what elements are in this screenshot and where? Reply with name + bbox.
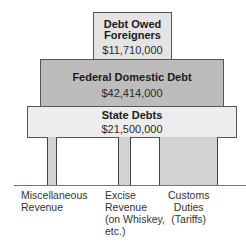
customs-duties-label: Customs Duties (Tariffs) (168, 189, 209, 225)
block-amount: $21,500,000 (28, 123, 236, 136)
customs-duties-pillar (159, 137, 218, 185)
block-title: Federal Domestic Debt (41, 72, 223, 83)
label-line: (on Whiskey, (105, 213, 165, 225)
debt-owed-foreigners-block: Debt Owed Foreigners $11,710,000 (93, 12, 172, 61)
block-title: Foreigners (94, 30, 171, 41)
label-line: Excise (105, 189, 165, 201)
federal-domestic-debt-block: Federal Domestic Debt $42,414,000 (40, 59, 224, 108)
label-line: Revenue (21, 201, 88, 213)
excise-revenue-pillar (118, 137, 131, 185)
block-amount: $42,414,000 (41, 87, 223, 100)
label-line: Customs (168, 189, 209, 201)
label-line: Miscellaneous (21, 189, 88, 201)
block-title: State Debts (28, 110, 236, 121)
misc-revenue-pillar (47, 137, 57, 185)
label-line: (Tariffs) (168, 213, 209, 225)
excise-revenue-label: Excise Revenue (on Whiskey, etc.) (105, 189, 165, 237)
misc-revenue-label: Miscellaneous Revenue (21, 189, 88, 213)
ground-line (14, 185, 246, 186)
label-line: Revenue (105, 201, 165, 213)
label-line: Duties (168, 201, 209, 213)
state-debts-block: State Debts $21,500,000 (27, 106, 237, 138)
block-amount: $11,710,000 (94, 44, 171, 57)
label-line: etc.) (105, 225, 165, 237)
